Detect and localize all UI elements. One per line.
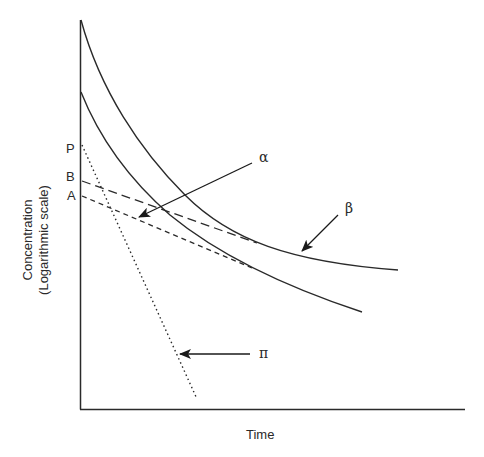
intercept-label-a: A bbox=[67, 189, 76, 202]
alpha-arrow bbox=[139, 163, 252, 217]
intercept-label-b: B bbox=[66, 170, 75, 183]
alpha-label: α bbox=[259, 151, 268, 164]
concentration-time-diagram bbox=[0, 0, 484, 457]
pi-label: π bbox=[259, 347, 268, 360]
upper-concentration-curve bbox=[81, 20, 398, 270]
lower-concentration-curve bbox=[81, 92, 362, 312]
y-axis-label: Concentration (Logarithmic scale) bbox=[20, 185, 52, 295]
y-axis-label-line1: Concentration bbox=[20, 185, 36, 295]
a-extrapolation-line bbox=[82, 196, 252, 268]
beta-arrow bbox=[302, 215, 338, 251]
p-extrapolation-line bbox=[82, 145, 197, 399]
x-axis-label: Time bbox=[246, 428, 274, 441]
y-axis-label-line2: (Logarithmic scale) bbox=[36, 185, 52, 295]
intercept-label-p: P bbox=[66, 142, 75, 155]
b-extrapolation-line bbox=[82, 181, 257, 243]
beta-label: β bbox=[345, 202, 353, 215]
